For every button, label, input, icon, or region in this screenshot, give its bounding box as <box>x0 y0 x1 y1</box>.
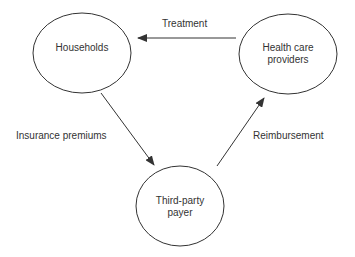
providers-label: Health care providers <box>238 42 338 66</box>
households-text: Households <box>56 42 109 53</box>
providers-line2: providers <box>238 54 338 66</box>
premiums-arrow <box>101 93 154 165</box>
payer-line2: payer <box>130 207 230 219</box>
providers-line1: Health care <box>238 42 338 54</box>
payer-line1: Third-party <box>130 195 230 207</box>
premiums-label: Insurance premiums <box>16 130 107 142</box>
reimbursement-label: Reimbursement <box>253 130 324 142</box>
treatment-label: Treatment <box>162 18 207 30</box>
households-label: Households <box>32 42 132 54</box>
payer-label: Third-party payer <box>130 195 230 219</box>
